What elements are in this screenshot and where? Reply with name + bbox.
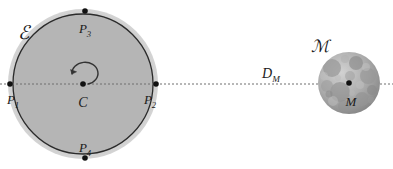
point-P2-label-sub: 2 <box>152 100 157 110</box>
point-P3-label-base: P <box>78 21 87 36</box>
point-P3-label-sub: 3 <box>86 29 91 39</box>
earth-center-label: C <box>78 95 88 110</box>
point-P3-dot <box>82 8 88 14</box>
diagram-canvas: ℰ C P1 P2 P3 P4 DM <box>0 0 393 169</box>
moon-crater <box>349 56 363 70</box>
moon-crater <box>328 96 338 106</box>
moon-crater <box>362 63 370 71</box>
point-P2-label-base: P <box>143 92 152 107</box>
moon-script-label: ℳ <box>311 36 332 56</box>
moon-crater <box>335 75 341 81</box>
moon-crater <box>355 92 369 106</box>
point-P2-dot <box>153 81 159 87</box>
point-P4-label-base: P <box>78 140 87 155</box>
distance-label-base: D <box>261 66 272 81</box>
distance-label: DM <box>256 62 282 84</box>
point-P1-label-sub: 1 <box>15 100 19 110</box>
moon-crater <box>321 80 333 92</box>
point-P1-label-base: P <box>6 92 15 107</box>
moon-crater <box>356 81 364 89</box>
moon-crater <box>368 97 375 104</box>
moon-crater <box>341 55 349 63</box>
moon-center-point <box>346 80 352 86</box>
moon-crater <box>326 91 333 98</box>
moon-crater <box>367 85 377 95</box>
distance-label-sub: M <box>271 74 281 84</box>
moon-center-label: M <box>345 94 358 109</box>
earth-center-point <box>80 81 86 87</box>
earth-moon-diagram: ℰ C P1 P2 P3 P4 DM <box>0 0 393 169</box>
moon-crater <box>345 71 355 81</box>
point-P1-dot <box>7 81 13 87</box>
earth-script-label: ℰ <box>18 21 32 43</box>
point-P4-label-sub: 4 <box>87 148 92 158</box>
moon-crater <box>320 72 328 80</box>
